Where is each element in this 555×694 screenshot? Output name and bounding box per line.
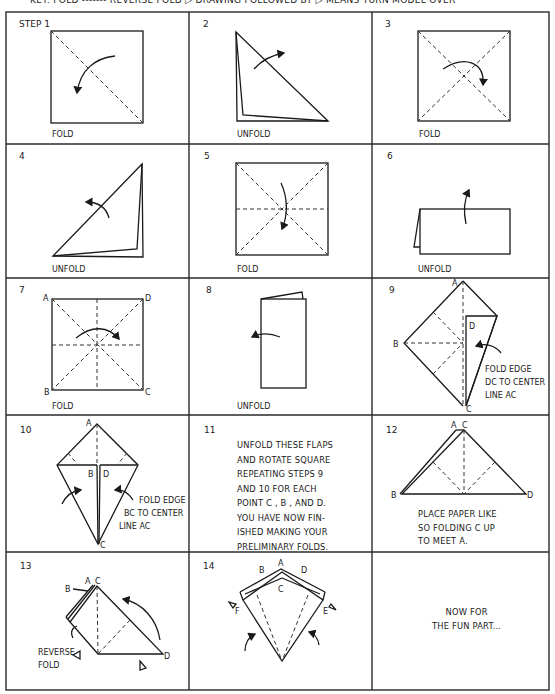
step-9-panel: 9 A B C D FOLD EDGE DC TO CENTER LINE AC — [389, 279, 546, 414]
step-6-panel: 6 UNFOLD — [387, 151, 510, 274]
unfold-arrow-icon — [464, 190, 469, 224]
point-label-b: B — [65, 585, 71, 594]
step-12-panel: 12 A C B D — [386, 421, 533, 500]
note-line: REVERSE — [38, 648, 75, 657]
point-label-c: C — [95, 577, 101, 586]
point-label-d: D — [527, 491, 533, 500]
point-label-b: B — [88, 470, 94, 479]
point-label-a: A — [452, 279, 458, 288]
unfold-arrow-icon — [254, 53, 284, 69]
point-label-b: B — [259, 566, 265, 575]
step-5-panel: 5 FOLD — [204, 151, 328, 274]
note-line: LINE AC — [485, 391, 517, 400]
point-label-a: A — [278, 559, 284, 568]
step-2-panel: 2 UNFOLD — [203, 19, 328, 139]
step-12-text: PLACE PAPER LIKE SO FOLDING C UP TO MEET… — [418, 508, 497, 549]
point-label-d: D — [301, 566, 307, 575]
instruction-sheet: STEP 1 FOLD 2 UNFOLD 3 FOLD 4 UNFOLD 5 — [0, 0, 555, 694]
reverse-fold-arrow — [72, 626, 77, 638]
point-label-a: A — [86, 419, 92, 428]
step-3-panel: 3 FOLD — [385, 19, 510, 139]
point-label-d: D — [469, 322, 475, 331]
point-label-c: C — [466, 405, 472, 414]
point-label-c: C — [145, 388, 151, 397]
fold-arrow-icon — [123, 599, 160, 640]
step-caption: UNFOLD — [418, 265, 451, 274]
fold-arrow-icon — [77, 56, 115, 93]
note-line: FOLD EDGE — [139, 496, 186, 505]
point-label-a: A — [85, 577, 91, 586]
step-caption: FOLD — [52, 402, 74, 411]
point-label-b: B — [393, 340, 399, 349]
step-number: 12 — [386, 425, 397, 435]
step-11-text: UNFOLD THESE FLAPS AND ROTATE SQUARE REP… — [237, 438, 333, 554]
step-10-panel: 10 A B D C FOLD EDGE BC TO CENTER LINE A… — [20, 419, 186, 550]
point-label-d: D — [103, 470, 109, 479]
point-label-f: F — [235, 607, 240, 616]
fold-arrow-icon — [476, 345, 501, 353]
point-label-a: A — [43, 294, 49, 303]
point-label-e: E — [323, 607, 328, 616]
point-label-c: C — [278, 585, 284, 594]
step-13-panel: 13 A C B D REVERSE FOLD — [20, 561, 170, 670]
unfold-arrow-icon — [252, 334, 280, 337]
step-number: 13 — [20, 561, 31, 571]
step-4-panel: 4 UNFOLD — [19, 151, 143, 274]
step-number: 2 — [203, 19, 209, 29]
step-number: STEP 1 — [19, 19, 50, 29]
step-number: 3 — [385, 19, 391, 29]
point-label-b: B — [391, 491, 397, 500]
step-7-panel: 7 A D B C FOLD — [19, 285, 151, 411]
step-number: 4 — [19, 151, 25, 161]
step-caption: FOLD — [52, 130, 74, 139]
step-number: 8 — [206, 285, 212, 295]
note-line: FOLD EDGE — [485, 365, 532, 374]
step-caption: UNFOLD — [237, 402, 270, 411]
step-14-panel: 14 A B D C F E — [203, 559, 336, 661]
step-number: 7 — [19, 285, 25, 295]
note-line: DC TO CENTER — [485, 378, 546, 387]
step-caption: FOLD — [237, 265, 259, 274]
fold-arrow-icon — [281, 183, 286, 229]
step-1-panel: STEP 1 FOLD — [19, 19, 143, 139]
point-label-c: C — [100, 541, 106, 550]
step-caption: FOLD — [419, 130, 441, 139]
step-11-panel: 11 — [204, 425, 215, 435]
point-label-a: A — [451, 421, 457, 430]
point-label-d: D — [145, 294, 151, 303]
step-number: 11 — [204, 425, 215, 435]
step-caption: UNFOLD — [237, 130, 270, 139]
final-text: NOW FOR THE FUN PART... — [432, 606, 501, 633]
fold-arrow-icon — [245, 634, 255, 651]
turn-over-icon — [140, 661, 146, 670]
fold-arrow-icon — [115, 490, 133, 500]
point-label-d: D — [164, 652, 170, 661]
step-number: 14 — [203, 561, 215, 571]
point-label-b: B — [44, 388, 50, 397]
step-caption: UNFOLD — [52, 265, 85, 274]
step-number: 10 — [20, 425, 32, 435]
point-label-c: C — [462, 421, 468, 430]
fold-arrow-icon — [443, 62, 483, 85]
step-number: 9 — [389, 285, 395, 295]
fold-arrow-icon — [309, 632, 319, 645]
note-line: BC TO CENTER — [124, 509, 184, 518]
note-line: FOLD — [38, 661, 60, 670]
step-8-panel: 8 UNFOLD — [206, 285, 306, 411]
step-number: 6 — [387, 151, 393, 161]
reverse-fold-icon — [329, 604, 336, 610]
step-number: 5 — [204, 151, 210, 161]
note-line: LINE AC — [119, 522, 151, 531]
